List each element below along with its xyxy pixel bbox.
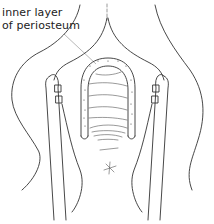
annotation-label-line2: of periosteum — [2, 19, 80, 32]
annotation-label-line1: inner layer — [2, 6, 62, 19]
left-outer-contour — [12, 5, 80, 190]
right-retractor-outer — [160, 76, 168, 220]
left-retractor-outer — [46, 76, 54, 220]
right-incision-edge — [108, 18, 164, 80]
periosteum-inner-edge — [88, 66, 128, 136]
left-retractor-inner — [56, 76, 66, 220]
lower-incision-mark — [100, 148, 118, 150]
tracheal-rings — [89, 72, 127, 140]
annotation-leader-line — [64, 34, 96, 64]
periosteum-drawing — [0, 0, 214, 224]
periosteum-stipple — [83, 60, 132, 126]
left-inner-tissue — [62, 104, 82, 212]
periosteum-outer-edge — [81, 58, 135, 136]
right-retractor-inner — [148, 76, 158, 220]
star-mark — [104, 162, 116, 174]
anatomical-illustration: inner layer of periosteum — [0, 0, 214, 224]
right-outer-contour — [155, 5, 203, 190]
